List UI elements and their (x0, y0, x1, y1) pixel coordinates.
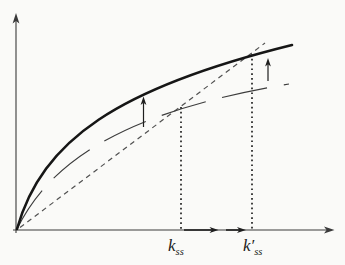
label-k-ss-prime-base: k′ (243, 236, 255, 255)
figure-background (0, 0, 345, 265)
label-k-ss-subscript: ss (176, 246, 184, 257)
solow-steady-state-diagram: kss k′ss (0, 0, 345, 265)
figure-canvas: kss k′ss (0, 0, 345, 265)
label-k-ss-prime-subscript: ss (254, 246, 262, 257)
